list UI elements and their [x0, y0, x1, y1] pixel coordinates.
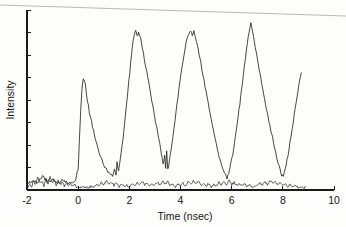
scan-artifact-line [0, 5, 346, 16]
x-tick-label-6: 10 [328, 194, 340, 206]
y-axis-title: Intensity [4, 80, 16, 120]
x-tick-label-4: 6 [229, 194, 235, 206]
y-axis-ticks [27, 10, 31, 190]
x-axis-title: Time (nsec) [157, 210, 212, 222]
data-traces [27, 23, 306, 189]
x-tick-label-5: 8 [280, 194, 286, 206]
figure-container: -20246810 Time (nsec) Intensity [0, 0, 346, 227]
intensity-time-chart: -20246810 Time (nsec) Intensity [0, 0, 346, 227]
x-tick-label-1: 0 [75, 194, 81, 206]
x-tick-label-3: 4 [178, 194, 184, 206]
x-tick-label-0: -2 [22, 194, 31, 206]
axes [27, 10, 334, 190]
x-tick-label-2: 2 [126, 194, 132, 206]
signal-pulse-trace [27, 23, 301, 184]
x-axis-tick-labels: -20246810 [22, 194, 340, 206]
